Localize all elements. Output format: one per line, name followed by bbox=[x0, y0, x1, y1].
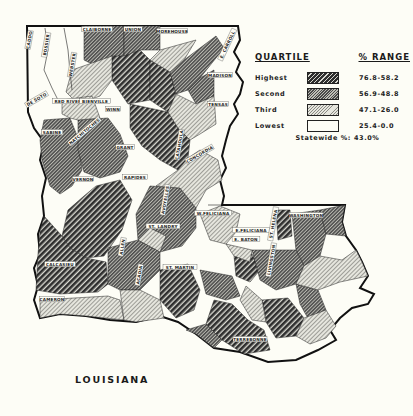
svg-text:TERREBONNE: TERREBONNE bbox=[233, 337, 267, 342]
parish-label: SABINE bbox=[41, 129, 63, 134]
parish-label: WINN bbox=[105, 106, 120, 111]
parish-label: E.FELICIANA bbox=[232, 227, 269, 232]
svg-text:SABINE: SABINE bbox=[43, 130, 62, 135]
svg-text:BIENVILLE: BIENVILLE bbox=[82, 99, 108, 104]
svg-text:WASHINGTON: WASHINGTON bbox=[289, 213, 324, 218]
svg-text:MADISON: MADISON bbox=[208, 73, 232, 78]
parish-label: VERNON bbox=[72, 176, 94, 181]
legend-label: Second bbox=[255, 90, 307, 98]
parish-label: GRANT bbox=[116, 144, 135, 149]
legend-label: Highest bbox=[255, 74, 307, 82]
legend-range: 25.4-0.0 bbox=[359, 122, 410, 130]
svg-text:CLAIBORNE: CLAIBORNE bbox=[83, 27, 112, 32]
swatch-third bbox=[307, 104, 339, 116]
parish-label: RED RIVER bbox=[53, 98, 84, 103]
parish-label: ST. LANDRY bbox=[146, 223, 180, 228]
parish-label: CALCASIEU bbox=[45, 261, 76, 266]
legend-range: 47.1-26.0 bbox=[359, 106, 410, 114]
map-title: LOUISIANA bbox=[75, 374, 149, 385]
svg-text:ST. MARTIN: ST. MARTIN bbox=[166, 265, 195, 270]
parish-label: CAMERON bbox=[39, 296, 64, 301]
legend-header-range: % RANGE bbox=[359, 52, 411, 62]
legend-item-highest: Highest 76.8-58.2 bbox=[255, 70, 410, 86]
statewide-percent: Statewide %: 43.0% bbox=[265, 134, 410, 142]
legend-range: 56.9-48.8 bbox=[359, 90, 410, 98]
svg-text:W.FELICIANA: W.FELICIANA bbox=[197, 211, 230, 216]
swatch-second bbox=[307, 88, 339, 100]
parish-label: CLAIBORNE bbox=[82, 26, 113, 31]
legend-item-lowest: Lowest 25.4-0.0 bbox=[255, 118, 410, 134]
svg-text:ST. LANDRY: ST. LANDRY bbox=[148, 224, 178, 229]
legend-item-second: Second 56.9-48.8 bbox=[255, 86, 410, 102]
parish-label: WASHINGTON bbox=[289, 212, 324, 217]
parish-label: ST. MARTIN bbox=[163, 264, 197, 269]
parish-label: BIENVILLE bbox=[80, 98, 111, 103]
svg-text:E.FELICIANA: E.FELICIANA bbox=[235, 228, 267, 233]
swatch-highest bbox=[307, 72, 339, 84]
svg-text:CAMERON: CAMERON bbox=[39, 297, 64, 302]
parish-label: RAPIDES bbox=[123, 174, 148, 179]
parish-label: E. BATON bbox=[232, 236, 260, 241]
svg-text:E. BATON: E. BATON bbox=[234, 237, 258, 242]
parish-label: TENSAS bbox=[207, 101, 229, 106]
svg-text:MOREHOUSE: MOREHOUSE bbox=[156, 29, 188, 34]
parish-label: MOREHOUSE bbox=[156, 28, 188, 33]
parish-label: MADISON bbox=[208, 72, 233, 77]
svg-text:CALCASIEU: CALCASIEU bbox=[46, 262, 74, 267]
legend-range: 76.8-58.2 bbox=[359, 74, 410, 82]
parish-label: UNION bbox=[124, 26, 143, 31]
swatch-lowest bbox=[307, 120, 339, 132]
svg-text:TENSAS: TENSAS bbox=[208, 102, 228, 107]
legend-header-quartile: QUARTILE bbox=[255, 52, 310, 62]
svg-text:UNION: UNION bbox=[125, 27, 142, 32]
parish-label: W.FELICIANA bbox=[194, 210, 231, 215]
legend-label: Third bbox=[255, 106, 307, 114]
legend-label: Lowest bbox=[255, 122, 307, 130]
legend: QUARTILE % RANGE Highest 76.8-58.2 Secon… bbox=[255, 52, 410, 142]
svg-text:RAPIDES: RAPIDES bbox=[124, 175, 146, 180]
legend-item-third: Third 47.1-26.0 bbox=[255, 102, 410, 118]
svg-text:VERNON: VERNON bbox=[72, 177, 93, 182]
legend-header: QUARTILE % RANGE bbox=[255, 52, 410, 62]
svg-text:GRANT: GRANT bbox=[116, 145, 133, 150]
svg-text:WINN: WINN bbox=[106, 107, 120, 112]
svg-text:RED RIVER: RED RIVER bbox=[55, 99, 83, 104]
parish-label: TERREBONNE bbox=[233, 336, 267, 341]
